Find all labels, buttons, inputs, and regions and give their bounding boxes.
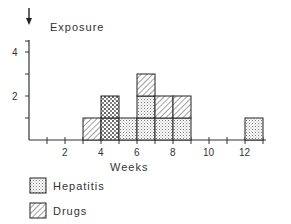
x-axis-label: Weeks — [110, 161, 148, 173]
legend-swatch-hatch — [30, 203, 46, 218]
x-tick-6: 6 — [134, 147, 140, 158]
bar-cell-hepatitis — [245, 118, 263, 140]
bar-cell-hepatitis — [137, 118, 155, 140]
bar-cell-hepatitis — [119, 118, 137, 140]
x-tick-10: 10 — [203, 147, 215, 158]
bars — [83, 74, 263, 140]
y-tick-2: 2 — [12, 91, 18, 102]
bar-cell-hepatitis — [155, 118, 173, 140]
bar-cell-drugs — [137, 74, 155, 96]
y-axis-label: Exposure — [50, 21, 104, 33]
histogram-chart: 4 2 Exposure 2 4 6 8 10 12 Weeks — [0, 0, 291, 224]
bar-cell-drugs — [155, 96, 173, 118]
bar-cell-drugs — [83, 118, 101, 140]
bar-cell-both — [101, 118, 119, 140]
bar-cell-drugs — [173, 96, 191, 118]
x-tick-12: 12 — [239, 147, 251, 158]
y-tick-4: 4 — [12, 47, 18, 58]
legend-swatch-dotted — [30, 178, 46, 193]
legend-label: Drugs — [53, 205, 87, 217]
legend-item-hepatitis: Hepatitis — [30, 178, 105, 193]
legend: Hepatitis Drugs — [30, 178, 105, 218]
x-tick-2: 2 — [62, 147, 68, 158]
legend-label: Hepatitis — [53, 180, 105, 192]
bar-cell-hepatitis — [137, 96, 155, 118]
y-axis: 4 2 — [12, 40, 29, 140]
down-arrow-icon — [26, 8, 32, 25]
x-tick-8: 8 — [170, 147, 176, 158]
bar-cell-both — [101, 96, 119, 118]
legend-item-drugs: Drugs — [30, 203, 87, 218]
x-tick-4: 4 — [98, 147, 104, 158]
bar-cell-hepatitis — [173, 118, 191, 140]
